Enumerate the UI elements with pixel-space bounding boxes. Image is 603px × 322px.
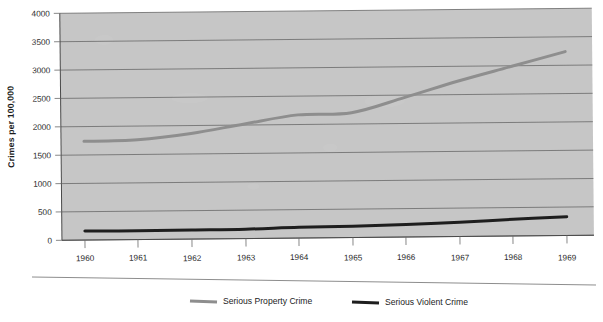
x-tick-label: 1964: [290, 253, 309, 262]
y-tick-label: 3000: [32, 66, 51, 75]
legend-label-property: Serious Property Crime: [223, 296, 313, 306]
x-tick-label: 1965: [344, 253, 363, 262]
y-tick-label: 3500: [32, 38, 51, 47]
line-chart-svg: 4000 3500 3000 2500 2000 1500 1000 500 0…: [0, 0, 603, 322]
y-axis-title: Crimes per 100,000: [5, 86, 16, 168]
x-tick-label: 1968: [504, 253, 523, 262]
x-tick-label: 1962: [183, 254, 202, 263]
y-tick-label: 4000: [32, 9, 51, 18]
y-tick-label: 1500: [33, 151, 52, 160]
y-tick-label: 2000: [33, 123, 52, 132]
legend-item-serious-violent-crime[interactable]: Serious Violent Crime: [352, 297, 468, 307]
x-tick-label: 1961: [129, 253, 148, 262]
x-tick-label: 1969: [558, 253, 577, 262]
legend-separator: [32, 277, 596, 285]
legend-item-serious-property-crime[interactable]: Serious Property Crime: [190, 296, 313, 306]
y-tick-label: 500: [38, 208, 52, 217]
y-tick-labels: 4000 3500 3000 2500 2000 1500 1000 500 0: [32, 9, 53, 245]
x-tick-labels: 1960 1961 1962 1963 1964 1965 1966 1967 …: [76, 249, 577, 267]
legend-swatch-property: [190, 301, 217, 302]
y-tick-label: 1000: [33, 180, 52, 189]
y-tick-label: 2500: [32, 94, 51, 103]
x-tick-label: 1967: [451, 253, 470, 262]
legend-label-violent: Serious Violent Crime: [385, 297, 468, 307]
chart-figure: 4000 3500 3000 2500 2000 1500 1000 500 0…: [0, 0, 603, 322]
chart-legend: Serious Property Crime Serious Violent C…: [190, 296, 468, 307]
y-tick-label: 0: [47, 236, 52, 245]
x-tick-label: 1963: [237, 253, 256, 262]
x-tick-label: 1966: [397, 253, 416, 262]
x-tick-label: 1960: [76, 254, 95, 263]
legend-swatch-violent: [352, 302, 379, 303]
